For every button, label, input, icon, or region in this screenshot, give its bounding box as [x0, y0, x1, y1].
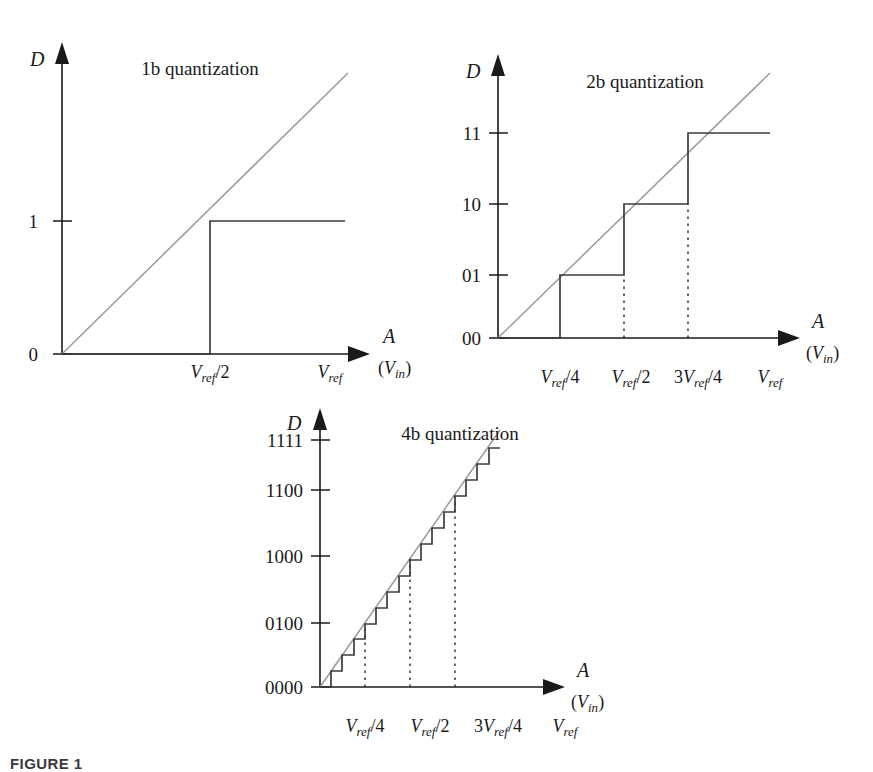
panel-title-1b: 1b quantization	[141, 58, 259, 79]
chart-svg-1b: D A (Vin) 0 1 Vref/2 Vref 1b quantizatio…	[0, 18, 430, 383]
y-axis-arrowhead	[55, 42, 69, 64]
y-tick-label-1100: 1100	[266, 480, 303, 501]
y-tick-label-0000: 0000	[265, 677, 303, 698]
x-tick-label-vref-half: Vref/2	[612, 367, 651, 390]
panel-title-4b: 4b quantization	[401, 423, 519, 444]
chart-svg-2b: D A (Vin) 00 01 10 11 Vref/4 Vref/2 3Vre…	[440, 28, 873, 393]
x-tick-label-vref-half: Vref/2	[191, 362, 230, 385]
chart-panel-4b: D A (Vin) 0000 0100 1000 1100 1111 Vref/…	[215, 392, 665, 742]
x-tick-label-vref-quarter: Vref/4	[541, 367, 580, 390]
y-axis-label: D	[29, 48, 45, 70]
x-axis-label: A	[381, 325, 396, 347]
x-axis-unit-label: (Vin)	[378, 358, 411, 381]
x-axis-label: A	[810, 310, 825, 332]
x-tick-label-vref: Vref	[553, 716, 580, 739]
y-axis-arrowhead	[491, 54, 505, 76]
y-tick-label-10: 10	[462, 194, 481, 215]
y-axis-label: D	[465, 60, 481, 82]
y-tick-label-1111: 1111	[267, 430, 303, 451]
x-tick-label-vref: Vref	[318, 362, 345, 385]
x-axis-label: A	[575, 659, 590, 681]
y-tick-label-1: 1	[29, 211, 39, 232]
x-axis-arrowhead	[348, 346, 370, 362]
panel-title-2b: 2b quantization	[586, 71, 704, 92]
ideal-transfer-line	[498, 73, 770, 338]
x-axis-unit-label: (Vin)	[806, 343, 839, 366]
x-axis-arrowhead	[543, 679, 565, 695]
x-tick-label-vref: Vref	[758, 367, 785, 390]
quantized-staircase	[498, 133, 770, 338]
chart-svg-4b: D A (Vin) 0000 0100 1000 1100 1111 Vref/…	[215, 392, 665, 742]
y-tick-label-00: 00	[462, 328, 481, 349]
y-tick-label-0: 0	[29, 344, 39, 365]
y-tick-label-01: 01	[462, 265, 481, 286]
y-axis-arrowhead	[313, 408, 327, 430]
chart-panel-2b: D A (Vin) 00 01 10 11 Vref/4 Vref/2 3Vre…	[440, 28, 873, 393]
figure-caption: FIGURE 1	[10, 755, 82, 772]
x-axis-arrowhead	[778, 330, 800, 346]
y-tick-label-1000: 1000	[265, 546, 303, 567]
chart-panel-1b: D A (Vin) 0 1 Vref/2 Vref 1b quantizatio…	[0, 18, 430, 383]
y-tick-label-11: 11	[463, 123, 481, 144]
ideal-transfer-line	[62, 73, 348, 354]
x-tick-label-3vref-quarter: 3Vref/4	[674, 367, 722, 390]
y-tick-label-0100: 0100	[265, 613, 303, 634]
quantized-staircase	[62, 221, 345, 354]
x-axis-unit-label: (Vin)	[571, 692, 604, 715]
x-tick-label-3vref-quarter: 3Vref/4	[474, 716, 522, 739]
x-tick-label-vref-quarter: Vref/4	[346, 716, 385, 739]
x-tick-label-vref-half: Vref/2	[411, 716, 450, 739]
